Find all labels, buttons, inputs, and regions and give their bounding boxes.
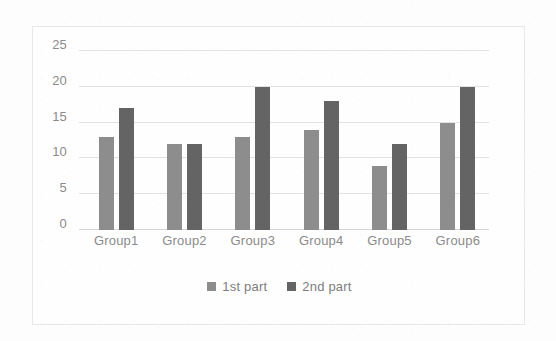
legend-swatch-icon-series1	[207, 282, 216, 291]
y-tick-label-25: 25	[52, 37, 67, 52]
y-tick-label-0: 0	[60, 216, 67, 231]
legend-label-series2: 2nd part	[302, 279, 351, 294]
chart-frame: 0510152025 Group1Group2Group3Group4Group…	[32, 26, 525, 325]
x-tick-label-group6: Group6	[436, 233, 481, 248]
y-axis-tick-labels: 0510152025	[33, 51, 77, 230]
plot-area	[79, 51, 489, 230]
legend-label-series1: 1st part	[222, 279, 267, 294]
y-tick-label-20: 20	[52, 72, 67, 87]
chart-legend: 1st part2nd part	[33, 279, 526, 294]
legend-item-series1[interactable]: 1st part	[207, 279, 267, 294]
bar-group5-series1[interactable]	[372, 166, 387, 230]
bar-group6-series1[interactable]	[440, 123, 455, 230]
x-tick-label-group1: Group1	[94, 233, 139, 248]
bar-group1-series1[interactable]	[99, 137, 114, 230]
bar-group3-series1[interactable]	[235, 137, 250, 230]
y-tick-label-5: 5	[60, 180, 67, 195]
x-tick-label-group2: Group2	[162, 233, 207, 248]
bar-group5-series2[interactable]	[392, 144, 407, 230]
bar-group6-series2[interactable]	[460, 87, 475, 230]
y-tick-label-10: 10	[52, 144, 67, 159]
bar-group4-series2[interactable]	[324, 101, 339, 230]
x-tick-label-group4: Group4	[299, 233, 344, 248]
bar-group3-series2[interactable]	[255, 87, 270, 230]
bar-group2-series2[interactable]	[187, 144, 202, 230]
x-axis-tick-labels: Group1Group2Group3Group4Group5Group6	[79, 233, 489, 255]
y-tick-label-15: 15	[52, 108, 67, 123]
x-tick-label-group3: Group3	[231, 233, 276, 248]
legend-item-series2[interactable]: 2nd part	[287, 279, 351, 294]
bar-group2-series1[interactable]	[167, 144, 182, 230]
bar-group1-series2[interactable]	[119, 108, 134, 230]
legend-swatch-icon-series2	[287, 282, 296, 291]
bars-layer	[79, 51, 489, 230]
bar-group4-series1[interactable]	[304, 130, 319, 230]
x-tick-label-group5: Group5	[367, 233, 412, 248]
